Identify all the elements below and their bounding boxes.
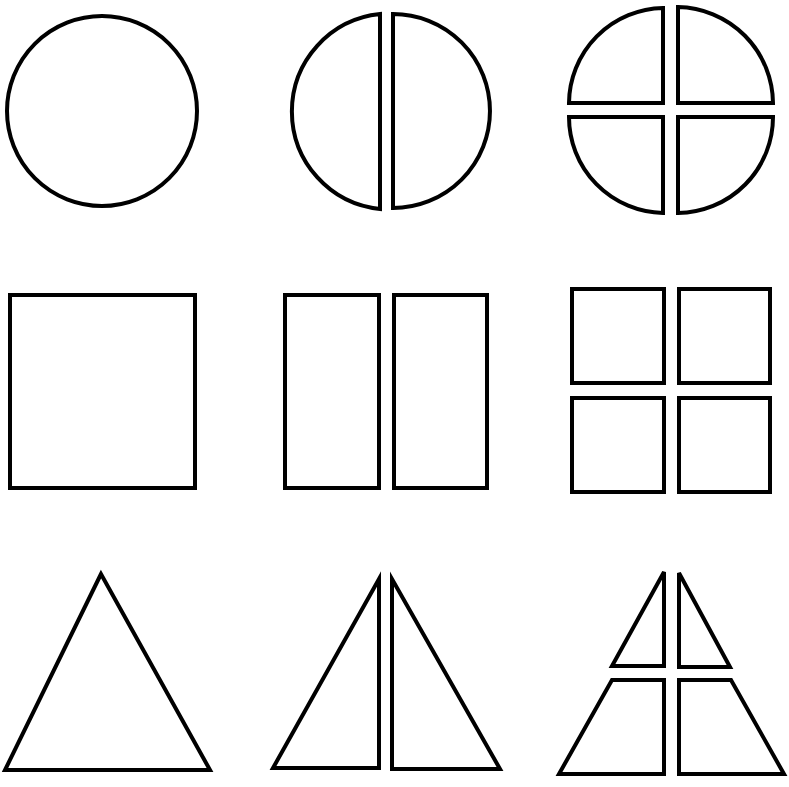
circle-quarter-top-left	[569, 8, 663, 103]
whole-square	[10, 295, 195, 488]
triangle-half-left	[273, 579, 379, 768]
circle-row	[7, 7, 773, 213]
square-quarter-bottom-left	[572, 398, 664, 492]
triangle-quarter-top-left	[612, 572, 664, 666]
circle-quarter-bottom-left	[569, 117, 663, 213]
square-row	[10, 289, 770, 492]
circle-quarters	[569, 7, 773, 213]
square-quarters	[572, 289, 770, 492]
circle-quarter-bottom-right	[678, 117, 773, 213]
circle-halves	[292, 14, 490, 209]
circle-whole-part	[7, 16, 197, 206]
triangle-quarters	[559, 572, 784, 774]
circle-quarter-top-right	[678, 7, 773, 103]
square-quarter-bottom-right	[679, 398, 770, 492]
triangle-quarter-bottom-left	[559, 680, 664, 774]
triangle-row	[5, 572, 784, 774]
whole-triangle	[5, 574, 210, 770]
fractions-diagram: Fractions of shapes: whole, halves, quar…	[0, 0, 789, 787]
square-quarter-top-right	[679, 289, 770, 383]
square-halves	[285, 295, 487, 488]
triangle-half-right	[392, 579, 500, 769]
circle-half-right	[393, 14, 490, 208]
whole-circle	[7, 16, 197, 206]
triangle-quarter-top-right	[679, 573, 730, 667]
triangle-quarter-bottom-right	[679, 680, 784, 774]
square-quarter-top-left	[572, 289, 664, 383]
circle-half-left	[292, 14, 380, 209]
square-half-left	[285, 295, 379, 488]
square-half-right	[394, 295, 487, 488]
triangle-whole-part	[5, 574, 210, 770]
square-whole-part	[10, 295, 195, 488]
triangle-halves	[273, 579, 500, 769]
